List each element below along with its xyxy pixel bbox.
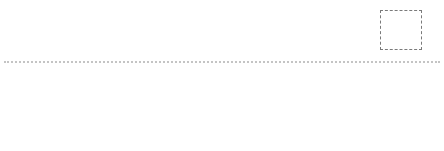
answer-placeholder-box [380, 10, 422, 50]
puzzle-stage [0, 0, 444, 151]
dotted-divider [4, 61, 440, 63]
